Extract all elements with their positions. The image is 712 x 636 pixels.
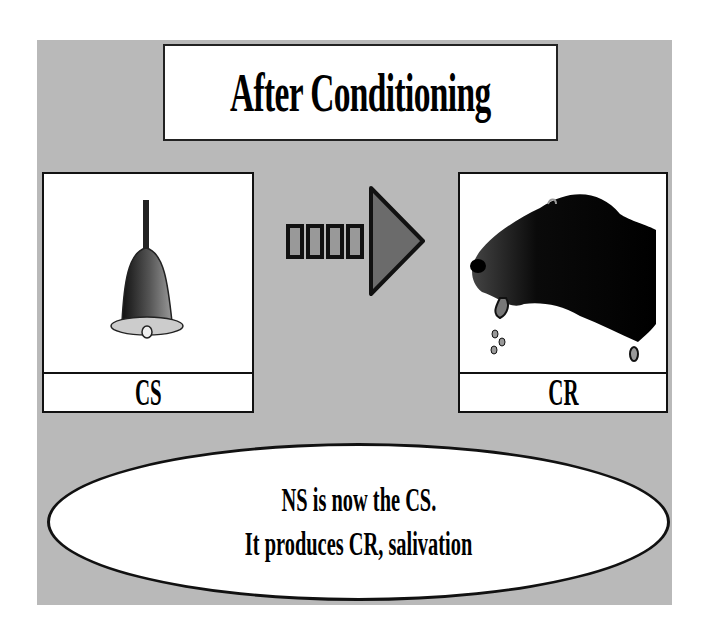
bell-icon: [44, 174, 252, 372]
cr-image: [460, 174, 666, 374]
cr-label: CR: [548, 370, 578, 414]
caption-ellipse: NS is now the CS. It produces CR, saliva…: [47, 443, 670, 601]
cs-card: CS: [42, 172, 254, 413]
caption-line-1: NS is now the CS.: [281, 478, 436, 522]
cs-image: [44, 174, 252, 374]
cs-label-box: CS: [44, 372, 252, 411]
cs-label: CS: [135, 370, 162, 414]
cr-card: CR: [458, 172, 668, 413]
cr-label-box: CR: [460, 372, 666, 411]
caption-line-2: It produces CR, salivation: [245, 522, 472, 566]
dog-salivating-icon: [460, 174, 666, 372]
title-box: After Conditioning: [163, 44, 558, 141]
arrow-right-icon: [285, 184, 430, 299]
diagram-title: After Conditioning: [230, 62, 491, 124]
